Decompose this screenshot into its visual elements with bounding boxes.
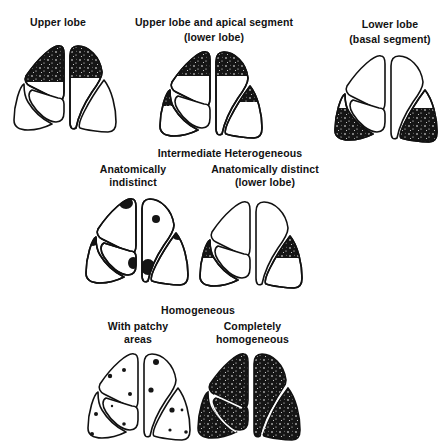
lung-diagram-upper-lobe (14, 42, 119, 134)
heading-homogeneous: Homogeneous (148, 304, 248, 316)
label-anatomically-distinct: Anatomically distinct (lower lobe) (195, 163, 335, 188)
heading-intermediate-heterogeneous: Intermediate Heterogeneous (130, 147, 330, 159)
label-lower-lobe-basal: Lower lobe (basal segment) (335, 18, 445, 45)
lung-diagram-patchy-areas (88, 350, 193, 442)
lung-diagram-anatomically-indistinct (86, 195, 191, 287)
label-anatomically-indistinct: Anatomically indistinct (88, 163, 178, 188)
lung-diagram-anatomically-distinct (200, 198, 305, 290)
label-with-patchy-areas: With patchy areas (98, 320, 178, 345)
lung-diagram-upper-lobe-apical (160, 48, 265, 140)
label-completely-homogeneous: Completely homogeneous (205, 320, 300, 345)
lung-diagram-lower-lobe-basal (335, 52, 440, 144)
lung-diagram-completely-homogeneous (198, 350, 303, 442)
label-upper-lobe-apical-segment: Upper lobe and apical segment (lower lob… (118, 16, 310, 43)
label-upper-lobe: Upper lobe (18, 16, 98, 28)
